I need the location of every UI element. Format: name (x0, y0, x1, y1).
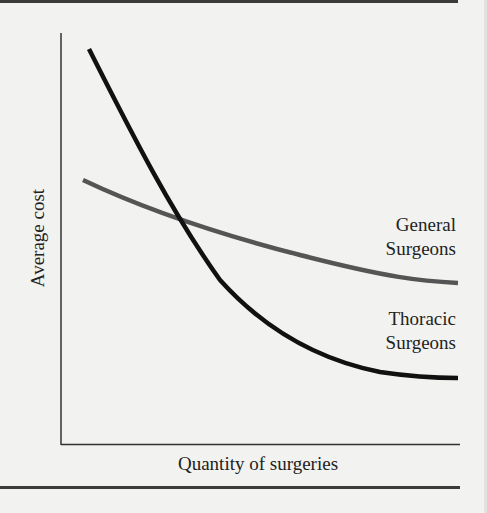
x-axis-label: Quantity of surgeries (178, 453, 338, 475)
general-label-line1: General (336, 213, 456, 237)
thoracic-label-line2: Surgeons (336, 331, 456, 355)
bottom-rule (0, 486, 460, 489)
thoracic-label-line1: Thoracic (336, 307, 456, 331)
general-label-line2: Surgeons (336, 237, 456, 261)
general-surgeons-label: General Surgeons (336, 213, 456, 261)
y-axis-label: Average cost (27, 189, 49, 287)
thoracic-surgeons-label: Thoracic Surgeons (336, 307, 456, 355)
